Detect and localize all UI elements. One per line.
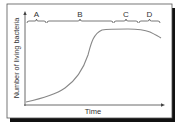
x-axis-label: Time — [85, 107, 101, 116]
phase-label-b: B — [77, 10, 82, 19]
y-axis-label: Number of living bacteria — [12, 17, 21, 99]
growth-curve-chart: Number of living bacteria Time A B C D — [0, 0, 182, 127]
phase-label-c: C — [123, 10, 129, 19]
phase-label-d: D — [147, 10, 153, 19]
phase-label-a: A — [34, 10, 40, 19]
